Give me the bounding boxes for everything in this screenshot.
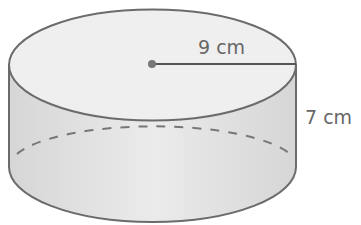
height-label: 7 cm xyxy=(305,106,352,128)
center-point xyxy=(148,60,156,68)
radius-label: 9 cm xyxy=(198,36,245,58)
cylinder-diagram: 9 cm 7 cm xyxy=(0,0,361,225)
